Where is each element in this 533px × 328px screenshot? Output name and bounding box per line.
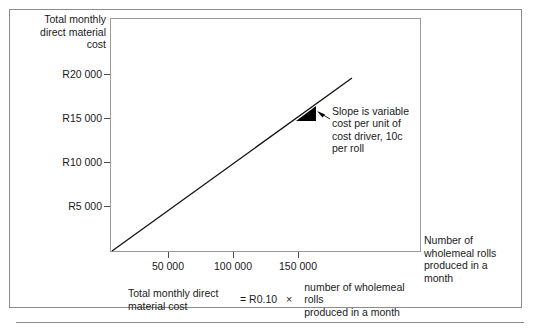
- x-tick-mark-100000: [233, 252, 234, 258]
- y-tick-label-20000: R20 000: [30, 69, 102, 80]
- formula-multiply-symbol: ×: [286, 293, 292, 305]
- figure-container: Total monthly direct material cost Numbe…: [0, 0, 533, 328]
- x-axis-title: Number of wholemeal rolls produced in a …: [424, 234, 528, 284]
- x-tick-label-150000: 150 000: [266, 261, 330, 272]
- x-tick-mark-150000: [298, 252, 299, 258]
- x-tick-label-50000: 50 000: [136, 261, 200, 272]
- x-tick-label-100000: 100 000: [201, 261, 265, 272]
- y-tick-mark-5000: [104, 206, 110, 207]
- formula-rate: = R0.10: [240, 293, 277, 305]
- formula-left-side: Total monthly direct material cost: [128, 287, 234, 312]
- x-tick-mark-50000: [168, 252, 169, 258]
- y-tick-mark-15000: [104, 118, 110, 119]
- formula-right-side: number of wholemeal rolls produced in a …: [304, 281, 426, 318]
- cost-formula: Total monthly direct material cost = R0.…: [128, 281, 426, 318]
- y-tick-label-5000: R5 000: [30, 201, 102, 212]
- figure-bottom-rule: [16, 322, 524, 323]
- y-tick-label-15000: R15 000: [30, 113, 102, 124]
- y-tick-mark-10000: [104, 162, 110, 163]
- y-tick-label-10000: R10 000: [30, 157, 102, 168]
- slope-annotation-text: Slope is variable cost per unit of cost …: [332, 105, 424, 155]
- y-axis-title: Total monthly direct material cost: [14, 13, 106, 51]
- y-tick-mark-20000: [104, 74, 110, 75]
